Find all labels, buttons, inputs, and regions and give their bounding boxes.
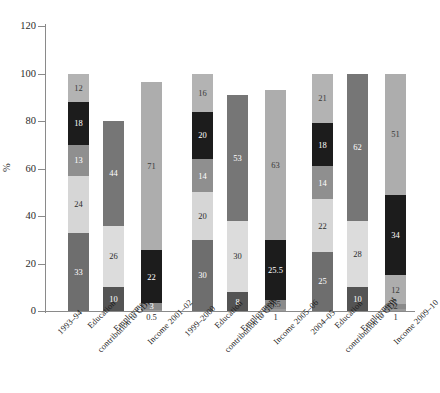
y-axis-tick [38, 74, 46, 75]
bar-segment-label: 13 [68, 156, 89, 165]
x-axis-label: 1993–94 [56, 308, 84, 336]
bar-segment-label: 51 [385, 130, 406, 139]
bar-segment-label: 44 [103, 169, 124, 178]
bar-segment[interactable]: 12 [68, 74, 89, 103]
bar-segment-label: 25.5 [265, 266, 286, 275]
bar-segment-label: 33 [68, 267, 89, 276]
bar-segment-label: 20 [192, 212, 213, 221]
bar-segment[interactable]: 28 [347, 221, 368, 288]
bar-segment[interactable]: 30 [192, 240, 213, 311]
bar-5[interactable]: 53308 [227, 95, 248, 311]
bar-segment[interactable]: 33 [68, 233, 89, 311]
bar-segment[interactable]: 26 [103, 226, 124, 288]
y-axis-tick-label: 100 [4, 69, 36, 79]
bar-segment-label: 71 [141, 162, 162, 171]
y-axis-tick-label: 60 [4, 164, 36, 174]
bar-segment-label: 22 [141, 272, 162, 281]
bar-1[interactable]: 1218132433 [68, 74, 89, 312]
bar-segment[interactable]: 14 [192, 159, 213, 192]
bar-segment-label: 22 [312, 221, 333, 230]
y-axis-tick-label: 40 [4, 211, 36, 221]
bar-9[interactable]: 51341221 [385, 74, 406, 312]
bar-segment[interactable]: 63 [265, 90, 286, 240]
bar-segment[interactable]: 22 [312, 199, 333, 251]
bar-segment-label: 53 [227, 153, 248, 162]
bar-segment-label: 18 [68, 119, 89, 128]
bar-4[interactable]: 1620142030 [192, 74, 213, 312]
bar-segment-label: 30 [227, 252, 248, 261]
bar-segment-label: 16 [192, 88, 213, 97]
bar-segment-label: 21 [312, 94, 333, 103]
bar-segment-label: 20 [192, 131, 213, 140]
bar-segment-label: 34 [385, 231, 406, 240]
bar-8[interactable]: 622810 [347, 74, 368, 312]
bar-3[interactable]: 712230.5 [141, 82, 162, 311]
y-axis-tick [38, 26, 46, 27]
y-axis-tick [38, 121, 46, 122]
y-axis-tick [38, 216, 46, 217]
bar-segment-label: 28 [347, 250, 368, 259]
bar-segment[interactable]: 30 [227, 221, 248, 292]
y-axis-tick [38, 264, 46, 265]
bar-segment-label: 12 [385, 285, 406, 294]
bar-segment[interactable]: 14 [312, 166, 333, 199]
bar-segment[interactable]: 53 [227, 95, 248, 221]
bar-segment-label: 0.5 [141, 313, 162, 322]
y-axis-tick-label: 0 [4, 306, 36, 316]
bar-segment[interactable]: 18 [312, 123, 333, 166]
bar-segment[interactable]: 25.5 [265, 240, 286, 301]
y-axis-tick-label: 20 [4, 259, 36, 269]
bar-segment[interactable]: 20 [192, 112, 213, 160]
bar-segment[interactable]: 34 [385, 195, 406, 276]
bar-segment-label: 18 [312, 140, 333, 149]
bar-segment-label: 25 [312, 277, 333, 286]
bar-segment[interactable]: 51 [385, 74, 406, 195]
bar-segment[interactable]: 18 [68, 102, 89, 145]
bar-segment-label: 63 [265, 160, 286, 169]
y-axis-tick [38, 311, 46, 312]
bar-segment[interactable]: 16 [192, 74, 213, 112]
bar-segment[interactable]: 44 [103, 121, 124, 226]
plot-area: 1218132433442610712230.51620142030533086… [46, 26, 414, 311]
bar-segment[interactable]: 71 [141, 82, 162, 251]
bar-segment-label: 14 [192, 171, 213, 180]
bar-segment-label: 12 [68, 83, 89, 92]
bar-segment-label: 26 [103, 252, 124, 261]
bar-segment-label: 62 [347, 143, 368, 152]
y-axis-tick-label: 120 [4, 21, 36, 31]
bar-segment[interactable]: 24 [68, 176, 89, 233]
y-axis-tick-label: 80 [4, 116, 36, 126]
y-axis-tick [38, 169, 46, 170]
bar-segment[interactable]: 13 [68, 145, 89, 176]
bar-segment-label: 14 [312, 178, 333, 187]
bar-segment-label: 24 [68, 200, 89, 209]
bar-2[interactable]: 442610 [103, 121, 124, 311]
bar-segment-label: 30 [192, 271, 213, 280]
bar-segment[interactable]: 20 [192, 192, 213, 240]
bar-6[interactable]: 6325.50.51 [265, 90, 286, 311]
bar-segment[interactable]: 62 [347, 74, 368, 221]
bar-7[interactable]: 2118142225 [312, 74, 333, 312]
bar-segment[interactable]: 21 [312, 74, 333, 124]
